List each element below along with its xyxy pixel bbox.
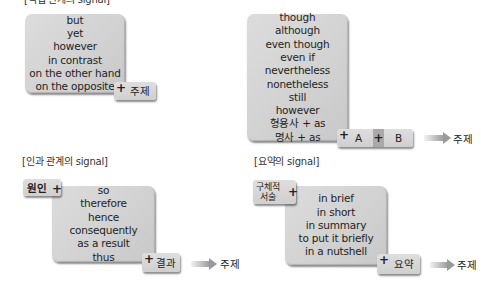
signal-word: even though xyxy=(265,38,329,51)
topic-result-label: 주제 xyxy=(457,257,477,272)
signal-word: although xyxy=(275,24,320,37)
cause-effect-signal-box: so therefore hence consequently as a res… xyxy=(52,186,155,262)
signal-word: but xyxy=(67,14,84,27)
plus-icon: + xyxy=(144,253,154,265)
signal-word: yet xyxy=(67,27,83,40)
topic-tag-label: 주제 xyxy=(130,85,150,97)
arrow-right-icon xyxy=(424,135,444,141)
signal-word: however xyxy=(53,40,97,53)
signal-word: nevertheless xyxy=(265,64,330,77)
signal-word: however xyxy=(276,104,320,117)
signal-word: to put it briefly xyxy=(299,232,374,245)
signal-word: on the opposite xyxy=(35,80,114,93)
tag-b-label: B xyxy=(395,132,402,144)
effect-tag-label: 결과 xyxy=(156,257,176,269)
plus-icon: + xyxy=(379,254,389,266)
signal-word: so xyxy=(98,184,110,197)
cause-tag-label: 원인 xyxy=(27,182,47,194)
detail-tag-line2: 서술 xyxy=(260,192,276,202)
plus-icon: + xyxy=(288,186,298,198)
signal-word: 형용사 + as xyxy=(270,117,326,130)
topic-result-label: 주제 xyxy=(220,256,240,271)
signal-word: 명사 + as xyxy=(275,131,321,144)
plus-icon: + xyxy=(52,183,62,195)
signal-word: nonetheless xyxy=(267,78,329,91)
cause-effect-section-label: [인과 관계의 signal] xyxy=(22,153,108,168)
plus-icon: + xyxy=(116,82,126,94)
summary-section-label: [요약의 signal] xyxy=(254,153,319,168)
signal-word: therefore xyxy=(80,197,127,210)
plus-icon: + xyxy=(339,129,349,141)
signal-word: in a nutshell xyxy=(305,245,367,258)
signal-word: though xyxy=(280,11,316,24)
topic-result-label: 주제 xyxy=(453,131,473,146)
concession-signal-box: though although even though even if neve… xyxy=(247,14,348,141)
signal-word: thus xyxy=(92,251,114,264)
signal-word: in brief xyxy=(318,192,353,205)
contrast-signal-box: but yet however in contrast on the other… xyxy=(25,14,125,93)
arrow-right-icon xyxy=(430,262,448,268)
arrow-right-icon xyxy=(191,261,210,267)
signal-word: still xyxy=(289,91,306,104)
signal-word: hence xyxy=(88,211,119,224)
signal-word: in summary xyxy=(306,219,366,232)
signal-word: as a result xyxy=(77,237,130,250)
signal-word: even if xyxy=(280,51,314,64)
signal-word: in short xyxy=(317,206,355,219)
detail-tag-line1: 구체적 xyxy=(256,182,280,192)
summary-signal-box: in brief in short in summary to put it b… xyxy=(285,186,387,265)
contrast-section-label: [역접 관계의 signal] xyxy=(24,0,110,6)
signal-word: consequently xyxy=(69,224,137,237)
tag-a-label: A xyxy=(355,132,362,144)
signal-word: in contrast xyxy=(48,54,102,67)
plus-icon: + xyxy=(373,129,384,147)
signal-word: on the other hand xyxy=(29,67,120,80)
summary-tag-label: 요약 xyxy=(394,258,414,270)
